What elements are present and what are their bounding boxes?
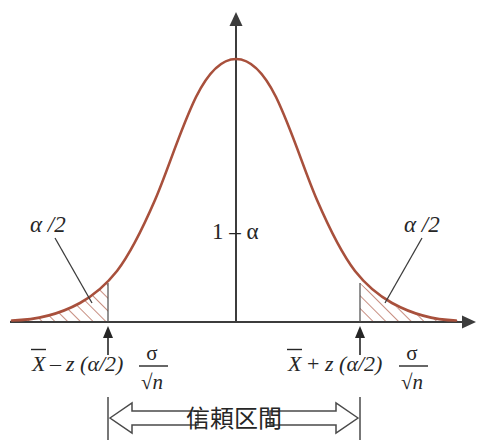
upper-formula-z-term: z (α/2) [324, 351, 382, 376]
confidence-interval-label: 信頼区間 [186, 405, 282, 433]
right-alpha-half-label: α /2 [404, 212, 440, 237]
left-tail-hatching [10, 270, 110, 324]
normal-distribution-curve [12, 59, 456, 321]
upper-formula-xbar: X [287, 351, 303, 376]
right-tail-shaded-region [358, 270, 458, 324]
upper-bound-formula: X + z (α/2) σ √n [287, 341, 428, 394]
lower-formula-xbar: X [31, 351, 47, 376]
right-alpha-leader-line [385, 238, 422, 303]
left-alpha-half-label: α /2 [30, 212, 66, 237]
confidence-interval-bracket: 信頼区間 [108, 397, 360, 440]
y-axis-arrowhead-icon [230, 12, 243, 26]
confidence-interval-figure: α /2 α /2 1 – α X – z (α/2) σ √n X + z (… [0, 0, 481, 446]
right-tail-hatching [358, 270, 458, 324]
left-alpha-leader-line [55, 238, 92, 303]
bracket-right-hollow-arrow-icon [270, 403, 358, 433]
lower-formula-z-term: z (α/2) [65, 351, 123, 376]
lower-formula-numerator: σ [146, 341, 157, 365]
upper-formula-denominator: √n [401, 370, 423, 394]
lower-bound-arrowhead-icon [103, 326, 113, 338]
bracket-left-hollow-arrow-icon [110, 403, 198, 433]
x-axis-arrowhead-icon [462, 316, 476, 329]
upper-bound-arrowhead-icon [355, 326, 365, 338]
upper-formula-operator: + [307, 351, 319, 376]
left-tail-shaded-region [10, 270, 110, 324]
lower-bound-formula: X – z (α/2) σ √n [31, 341, 168, 394]
lower-formula-operator: – [49, 351, 62, 376]
lower-formula-denominator: √n [141, 370, 163, 394]
upper-formula-numerator: σ [406, 341, 417, 365]
one-minus-alpha-label: 1 – α [212, 219, 259, 244]
distribution-chart: α /2 α /2 1 – α X – z (α/2) σ √n X + z (… [0, 0, 481, 446]
